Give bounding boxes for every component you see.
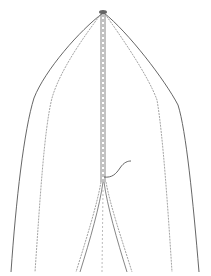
background (0, 0, 211, 276)
stake-diagram (0, 0, 211, 276)
apex-cap (99, 10, 107, 14)
line-drawing-canvas (0, 0, 211, 276)
